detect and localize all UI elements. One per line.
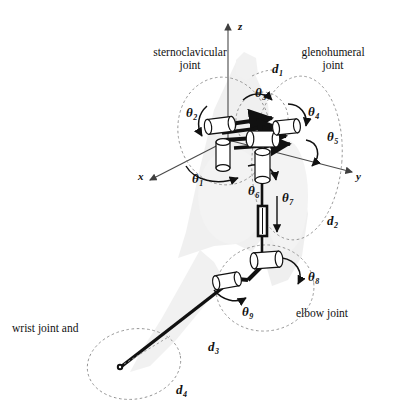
theta-5-glyph: θ <box>327 129 334 144</box>
sternoclavicular-line2: joint <box>130 59 250 72</box>
label-glenohumeral-joint: glenohumeral joint <box>278 46 388 72</box>
label-sternoclavicular-joint: sternoclavicular joint <box>130 46 250 72</box>
label-elbow-joint: elbow joint <box>296 307 348 320</box>
length-label-d-3: d3 <box>208 340 219 355</box>
angle-label-theta-2: θ2 <box>186 106 197 121</box>
d-3-glyph: d <box>208 339 215 354</box>
theta-8-glyph: θ <box>308 269 315 284</box>
cylinder-theta1 <box>216 139 230 172</box>
angle-label-theta-8: θ8 <box>308 270 319 285</box>
theta-7-glyph: θ <box>282 190 289 205</box>
angle-label-theta-9: θ9 <box>242 305 253 320</box>
d-2-glyph: d <box>327 213 334 228</box>
theta-2-sub: 2 <box>193 113 197 122</box>
theta-2-glyph: θ <box>186 105 193 120</box>
theta-7-sub: 7 <box>289 198 293 207</box>
label-wrist-joint: wrist joint and <box>12 322 78 335</box>
angle-label-theta-1: θ1 <box>192 172 203 187</box>
theta-5-sub: 5 <box>334 137 338 146</box>
theta-3-sub: 3 <box>262 93 266 102</box>
cylinder-theta2 <box>204 116 237 135</box>
length-label-d-4: d4 <box>176 383 187 398</box>
theta-4-sub: 4 <box>315 112 319 121</box>
theta-9-sub: 9 <box>249 312 253 321</box>
glenohumeral-line2: joint <box>278 59 388 72</box>
d-4-sub: 4 <box>183 390 187 399</box>
theta-8-sub: 8 <box>315 277 319 286</box>
axis-label-z: z <box>238 20 242 33</box>
d-4-glyph: d <box>176 382 183 397</box>
angle-label-theta-6: θ6 <box>248 184 259 199</box>
angle-label-theta-4: θ4 <box>308 105 319 120</box>
figure-canvas: sternoclavicular joint glenohumeral join… <box>0 0 393 411</box>
theta-6-glyph: θ <box>248 183 255 198</box>
sternoclavicular-line1: sternoclavicular <box>130 46 250 59</box>
cylinder-theta8 <box>250 251 284 269</box>
theta-1-glyph: θ <box>192 171 199 186</box>
d-1-sub: 1 <box>279 69 283 78</box>
theta-4-glyph: θ <box>308 104 315 119</box>
theta-3-glyph: θ <box>255 85 262 100</box>
theta-1-sub: 1 <box>199 179 203 188</box>
d-3-sub: 3 <box>215 347 219 356</box>
length-label-d-1: d1 <box>272 62 283 77</box>
d-2-sub: 2 <box>334 221 338 230</box>
length-label-d-2: d2 <box>327 214 338 229</box>
axis-label-y: y <box>356 170 361 183</box>
angle-label-theta-5: θ5 <box>327 130 338 145</box>
angle-label-theta-7: θ7 <box>282 191 293 206</box>
angle-label-theta-3: θ3 <box>255 86 266 101</box>
axis-label-x: x <box>138 170 144 183</box>
theta-9-glyph: θ <box>242 304 249 319</box>
theta-6-sub: 6 <box>255 191 259 200</box>
cylinder-theta4 <box>272 119 301 136</box>
d-1-glyph: d <box>272 61 279 76</box>
cylinder-theta6 <box>255 148 270 183</box>
glenohumeral-line1: glenohumeral <box>278 46 388 59</box>
